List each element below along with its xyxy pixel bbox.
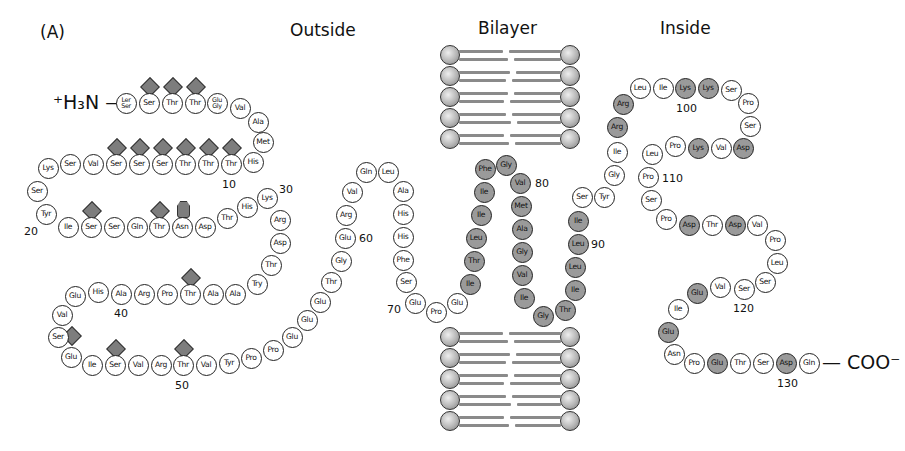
amino-acid-residue: Pro xyxy=(665,136,686,157)
residue-label: Leu xyxy=(771,259,784,267)
residue-label: His xyxy=(93,288,104,296)
amino-acid-residue: Arg xyxy=(134,284,155,305)
residue-label: Ala xyxy=(397,187,408,195)
residue-label: Ser xyxy=(110,160,122,168)
residue-label: Arg xyxy=(617,100,629,108)
residue-label: Arg xyxy=(155,361,167,369)
amino-acid-residue: Glu xyxy=(310,292,331,313)
amino-acid-residue: Asn xyxy=(172,217,193,238)
residue-label: Thr xyxy=(184,290,196,298)
residue-label: Ile xyxy=(674,305,682,313)
residue-label: Thr xyxy=(202,160,214,168)
amino-acid-residue: Thr xyxy=(730,353,751,374)
lipid-tail xyxy=(515,424,561,427)
lipid-tail xyxy=(510,134,561,137)
n-terminus-label: ⁺H₃N — xyxy=(53,91,124,113)
lipid-tail xyxy=(459,332,503,335)
amino-acid-residue: Asp xyxy=(195,217,216,238)
residue-label: Thr xyxy=(559,306,571,314)
amino-acid-residue: Glu xyxy=(707,353,728,374)
lipid-head-icon xyxy=(440,87,460,107)
residue-label: Val xyxy=(715,283,725,291)
residue-label: Ser xyxy=(108,223,120,231)
residue-label: Glu xyxy=(662,328,674,336)
residue-label: Lys xyxy=(692,144,703,152)
residue-label: Thr xyxy=(265,261,277,269)
lipid-tail xyxy=(510,416,561,419)
residue-label: Glu xyxy=(65,353,77,361)
lipid-tail xyxy=(514,340,561,343)
residue-label: Val xyxy=(57,311,67,319)
lipid-tail xyxy=(514,374,561,377)
amino-acid-residue: Leu xyxy=(378,162,399,183)
lipid-head-icon xyxy=(440,348,460,368)
amino-acid-residue: Glu xyxy=(405,293,426,314)
residue-label: Lys xyxy=(702,84,713,92)
amino-acid-residue: Thr xyxy=(180,284,201,305)
amino-acid-residue: Pro xyxy=(263,340,284,361)
lipid-head-icon xyxy=(440,390,460,410)
lipid-head-icon xyxy=(560,87,580,107)
amino-acid-residue: Ala xyxy=(203,284,224,305)
lipid-tail xyxy=(459,353,510,356)
residue-label: Arg xyxy=(274,216,286,224)
residue-label: Tyr xyxy=(41,210,51,218)
residue-label: Glu xyxy=(69,292,81,300)
amino-acid-residue: Val xyxy=(52,305,73,326)
residue-label: Pro xyxy=(660,215,671,223)
residue-label: Val xyxy=(235,104,245,112)
carbohydrate-icon xyxy=(177,201,190,218)
outside-title: Outside xyxy=(290,20,356,40)
amino-acid-residue: Pro xyxy=(738,93,759,114)
residue-position-number: 90 xyxy=(591,238,605,251)
residue-position-number: 80 xyxy=(535,177,549,190)
residue-label: Asp xyxy=(682,221,695,229)
residue-label: Pro xyxy=(769,236,780,244)
residue-label: Pro xyxy=(669,142,680,150)
residue-label: Ser xyxy=(757,359,769,367)
amino-acid-residue: Thr xyxy=(173,355,194,376)
amino-acid-residue: Ser xyxy=(139,93,160,114)
amino-acid-residue: Ile xyxy=(565,280,586,301)
amino-acid-residue: Ala xyxy=(393,181,414,202)
residue-label: Ser xyxy=(121,103,131,109)
residue-label: Thr xyxy=(177,361,189,369)
residue-label: Gly xyxy=(500,161,512,169)
residue-label: Ser xyxy=(109,361,121,369)
lipid-head-icon xyxy=(440,66,460,86)
lipid-head-icon xyxy=(560,390,580,410)
residue-label: Ser xyxy=(645,196,657,204)
residue-position-number: 40 xyxy=(114,307,128,320)
residue-position-number: 110 xyxy=(662,172,683,185)
residue-label: Ser xyxy=(759,278,771,286)
amino-acid-residue: His xyxy=(243,152,264,173)
residue-label: Lys xyxy=(679,84,690,92)
amino-acid-residue: Met xyxy=(511,196,532,217)
inside-title: Inside xyxy=(660,18,711,38)
amino-acid-residue: Ser xyxy=(753,353,774,374)
amino-acid-residue: Pro xyxy=(765,230,786,251)
lipid-tail xyxy=(514,92,561,95)
lipid-tail xyxy=(516,353,561,356)
residue-label: Ala xyxy=(207,290,218,298)
residue-label: Glu xyxy=(409,299,421,307)
amino-acid-residue: Leu xyxy=(568,234,589,255)
lipid-tail xyxy=(459,50,503,53)
residue-label: Glu xyxy=(691,289,703,297)
amino-acid-residue: Arg xyxy=(270,210,291,231)
amino-acid-residue: Phe xyxy=(393,250,414,271)
lipid-tail xyxy=(459,395,506,398)
residue-label: Arg xyxy=(611,123,623,131)
amino-acid-residue: Val xyxy=(710,277,731,298)
amino-acid-residue: Ser xyxy=(740,116,761,137)
amino-acid-residue: Ile xyxy=(607,142,628,163)
residue-label: Val xyxy=(515,179,525,187)
lipid-head-icon xyxy=(560,108,580,128)
amino-acid-residue: Ser xyxy=(755,272,776,293)
amino-acid-residue: Glu xyxy=(282,327,303,348)
amino-acid-residue: Arg xyxy=(336,205,357,226)
lipid-tail xyxy=(459,416,504,419)
residue-position-number: 30 xyxy=(279,183,293,196)
amino-acid-residue: Glu xyxy=(61,347,82,368)
residue-label: Asn xyxy=(667,350,680,358)
